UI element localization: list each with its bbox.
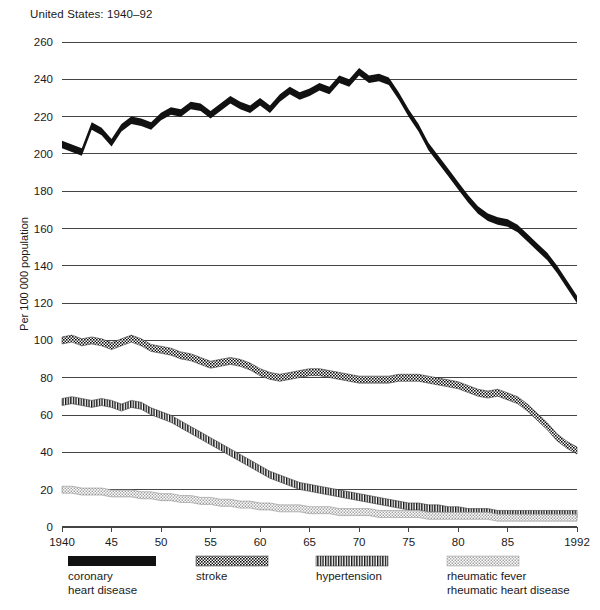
legend-label: coronary [68,570,113,582]
chart-gridlines [62,42,577,527]
chart-container: United States: 1940–92 Per 100 000 popul… [0,0,600,610]
y-tick-label: 100 [34,334,53,346]
x-tick-label: 50 [155,536,168,548]
y-tick-label: 240 [34,73,53,85]
legend-swatch-solid-black [68,556,156,566]
x-tick-label: 45 [105,536,118,548]
y-tick-label: 180 [34,185,53,197]
y-tick-label: 80 [40,372,53,384]
legend-swatch-vertical-hatch [316,556,388,566]
legend-swatch-stipple [447,556,519,566]
chart-legend: coronaryheart diseasestrokehypertensionr… [68,556,570,596]
legend-label-line2: rheumatic heart disease [447,584,570,596]
series-line-checker [62,335,577,454]
x-tick-label: 70 [353,536,366,548]
chart-plot-area: 020406080100120140160180200220240260 194… [0,0,600,610]
y-tick-label: 20 [40,484,53,496]
y-axis-tick-labels: 020406080100120140160180200220240260 [34,36,53,533]
y-tick-label: 60 [40,409,53,421]
y-tick-label: 260 [34,36,53,48]
y-tick-label: 120 [34,297,53,309]
y-tick-label: 220 [34,111,53,123]
x-tick-label: 65 [303,536,316,548]
x-tick-label: 1940 [49,536,75,548]
chart-series-layer [62,68,577,521]
x-tick-label: 85 [501,536,514,548]
y-tick-label: 0 [47,521,53,533]
x-tick-label: 60 [254,536,267,548]
series-line-solid-black [62,68,577,303]
y-tick-label: 160 [34,223,53,235]
x-tick-label: 1992 [564,536,590,548]
legend-label: stroke [196,570,227,582]
y-tick-label: 40 [40,446,53,458]
y-tick-label: 200 [34,148,53,160]
legend-label: rheumatic fever [447,570,526,582]
legend-label: hypertension [316,570,382,582]
x-tick-label: 80 [452,536,465,548]
legend-swatch-checker [196,556,268,566]
x-tick-label: 55 [204,536,217,548]
y-tick-label: 140 [34,260,53,272]
x-tick-label: 75 [402,536,415,548]
x-axis-tick-labels: 19404550556065707580851992 [49,527,590,548]
legend-label-line2: heart disease [68,584,137,596]
